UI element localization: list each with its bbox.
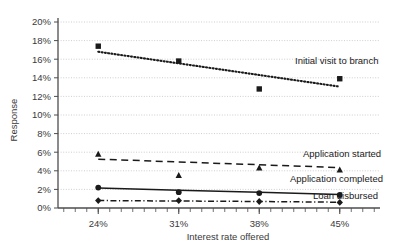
- response-vs-interest-rate-line-chart: 0%2%4%6%8%10%12%14%16%18%20% 24%31%38%45…: [0, 0, 402, 251]
- y-tick-label: 16%: [32, 54, 52, 65]
- series-label: Application started: [303, 148, 381, 159]
- y-tick-label: 0%: [37, 202, 51, 213]
- data-point: [337, 76, 342, 81]
- y-tick-label: 18%: [32, 35, 52, 46]
- series-label: Application completed: [290, 173, 383, 184]
- data-point: [176, 58, 181, 63]
- data-point: [96, 43, 101, 48]
- chart-container: 0%2%4%6%8%10%12%14%16%18%20% 24%31%38%45…: [0, 0, 402, 251]
- y-tick-label: 2%: [37, 184, 51, 195]
- y-tick-label: 10%: [32, 109, 52, 120]
- data-point: [95, 185, 101, 191]
- y-tick-label: 8%: [37, 128, 51, 139]
- series-label: Loan disbursed: [313, 190, 378, 201]
- y-tick-label: 12%: [32, 91, 52, 102]
- chart-background: [0, 0, 402, 251]
- y-tick-label: 4%: [37, 165, 51, 176]
- data-point: [176, 189, 182, 195]
- y-tick-label: 14%: [32, 72, 52, 83]
- x-tick-label: 31%: [169, 218, 189, 229]
- series-label: Initial visit to branch: [295, 55, 378, 66]
- x-tick-label: 45%: [330, 218, 350, 229]
- x-tick-label: 38%: [250, 218, 270, 229]
- data-point: [256, 190, 262, 196]
- y-axis-title: Response: [8, 99, 19, 142]
- y-tick-label: 6%: [37, 147, 51, 158]
- x-axis-title: Interest rate offered: [187, 231, 270, 242]
- x-tick-label: 24%: [89, 218, 109, 229]
- data-point: [257, 86, 262, 91]
- y-tick-label: 20%: [32, 16, 52, 27]
